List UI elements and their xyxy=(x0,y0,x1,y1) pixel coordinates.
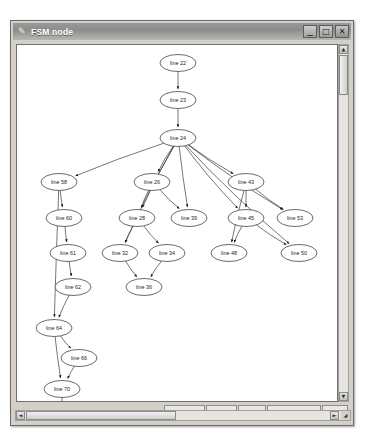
scroll-down-arrow-icon[interactable]: ▼ xyxy=(339,392,348,401)
vertical-scrollbar[interactable]: ▲ ▼ xyxy=(338,44,349,402)
title-bar[interactable]: ✎ FSM node _ □ ✕ xyxy=(13,23,351,40)
graph-node[interactable]: line 66 xyxy=(61,350,97,367)
graph-edge xyxy=(179,147,187,208)
graph-node[interactable]: line 60 xyxy=(46,210,82,227)
graph-edge xyxy=(60,191,62,208)
graph-node-label: line 60 xyxy=(56,215,72,221)
window-title: FSM node xyxy=(31,27,303,37)
graph-edge xyxy=(61,336,71,348)
graph-canvas[interactable]: line 22line 23line 24line 58line 26line … xyxy=(16,44,338,402)
graph-node[interactable]: line 62 xyxy=(55,279,91,296)
graph-node-label: line 32 xyxy=(112,250,128,256)
graph-node[interactable]: line 50 xyxy=(281,245,317,262)
graph-edge xyxy=(68,366,75,378)
graph-node[interactable]: line 61 xyxy=(50,245,86,262)
scroll-left-arrow-icon[interactable]: ◄ xyxy=(16,411,25,420)
graph-node[interactable]: line 22 xyxy=(160,55,196,72)
graph-node-label: line 53 xyxy=(287,215,303,221)
graph-node[interactable]: line 53 xyxy=(277,210,313,227)
graph-edge xyxy=(160,190,179,209)
graph-node-label: line 58 xyxy=(51,179,67,185)
graph-node-label: line 48 xyxy=(221,250,237,256)
graph-node-label: line 36 xyxy=(136,284,152,290)
vertical-scroll-thumb[interactable] xyxy=(339,55,348,95)
scroll-right-arrow-icon[interactable]: ► xyxy=(330,411,339,420)
fsm-graph: line 22line 23line 24line 58line 26line … xyxy=(17,45,337,402)
graph-edge xyxy=(144,226,159,243)
graph-node-label: line 22 xyxy=(170,60,186,66)
graph-node-label: line 34 xyxy=(159,250,175,256)
graph-node[interactable]: line 28 xyxy=(119,210,155,227)
graph-node[interactable]: line 48 xyxy=(211,245,247,262)
graph-edge xyxy=(69,262,71,277)
graph-node[interactable]: line 64 xyxy=(36,320,72,337)
graph-node[interactable]: line 58 xyxy=(41,174,77,191)
minimize-button[interactable]: _ xyxy=(303,25,317,38)
horizontal-scrollbar[interactable]: ◄ ► ◢ xyxy=(15,410,351,421)
graph-edge xyxy=(125,146,174,242)
graph-node[interactable]: line 24 xyxy=(160,130,196,147)
graph-edge xyxy=(76,143,164,176)
graph-edge xyxy=(185,146,238,208)
close-button[interactable]: ✕ xyxy=(335,25,349,38)
graph-edge xyxy=(65,227,67,243)
scroll-up-arrow-icon[interactable]: ▲ xyxy=(339,45,348,54)
graph-node-label: line 26 xyxy=(144,179,160,185)
pencil-icon: ✎ xyxy=(16,26,27,37)
graph-node[interactable]: line 45 xyxy=(228,210,264,227)
graph-node[interactable]: line 26 xyxy=(134,174,170,191)
graph-node-label: line 24 xyxy=(170,135,186,141)
graph-edge xyxy=(234,226,242,242)
graph-node[interactable]: line 43 xyxy=(228,174,264,191)
graph-node-layer: line 22line 23line 24line 58line 26line … xyxy=(36,55,317,403)
graph-edge xyxy=(186,146,289,244)
window-controls: _ □ ✕ xyxy=(303,25,349,38)
graph-node-label: line 62 xyxy=(65,284,81,290)
graph-node[interactable]: line 70 xyxy=(44,381,80,398)
graph-edge xyxy=(141,190,148,207)
graph-node-label: line 70 xyxy=(54,386,70,392)
window-client-area: line 22line 23line 24line 58line 26line … xyxy=(13,42,351,423)
graph-node[interactable]: line 34 xyxy=(149,245,185,262)
graph-node-label: line 66 xyxy=(71,355,87,361)
graph-node-label: line 50 xyxy=(291,250,307,256)
graph-node-label: line 28 xyxy=(129,215,145,221)
graph-edge xyxy=(126,261,137,277)
graph-node-label: line 39 xyxy=(181,215,197,221)
horizontal-scroll-thumb[interactable] xyxy=(26,411,176,420)
graph-node-label: line 23 xyxy=(170,97,186,103)
graph-edge xyxy=(257,225,287,245)
maximize-button[interactable]: □ xyxy=(319,25,333,38)
resize-grip-icon[interactable]: ◢ xyxy=(341,411,350,420)
fsm-node-window: ✎ FSM node _ □ ✕ line 22line 23line 24li… xyxy=(10,20,354,426)
graph-edge xyxy=(256,189,284,209)
graph-edge xyxy=(59,295,69,317)
graph-node-label: line 61 xyxy=(60,250,76,256)
graph-edge xyxy=(158,146,173,172)
graph-edge xyxy=(55,337,61,379)
graph-node[interactable]: line 36 xyxy=(126,279,162,296)
graph-edge xyxy=(151,261,162,277)
graph-node[interactable]: line 39 xyxy=(171,210,207,227)
graph-node[interactable]: line 23 xyxy=(160,92,196,109)
graph-node-label: line 64 xyxy=(46,325,62,331)
graph-node[interactable]: line 32 xyxy=(102,245,138,262)
graph-node-label: line 45 xyxy=(238,215,254,221)
graph-node-label: line 43 xyxy=(238,179,254,185)
